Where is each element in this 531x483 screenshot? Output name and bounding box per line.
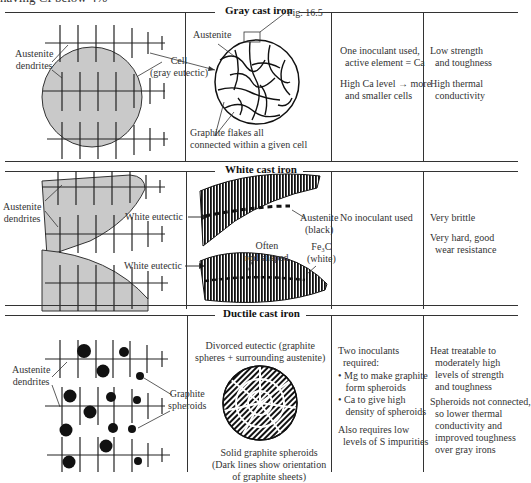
label-white-eutectic: White eutectic <box>124 260 182 272</box>
label-austenite-dendrites: Austenite dendrites <box>12 364 50 388</box>
label-white-eutectic: White eutectic <box>125 211 183 223</box>
graphite-spheroid-diagram <box>220 363 300 443</box>
inoculation-note: • Mg to make graphite form spheroids • C… <box>338 370 428 418</box>
property-note: Heat treatable to moderately high levels… <box>430 345 504 393</box>
property-note: High thermal conductivity <box>430 78 485 102</box>
inoculation-note: Also requires low levels of S impurities <box>338 424 428 448</box>
property-note: Spheroids not connected, so lower therma… <box>430 396 531 456</box>
label-fig-ref: Fig. 16.5 <box>287 7 323 19</box>
inoculation-note: High Ca level → more and smaller cells <box>340 78 431 102</box>
top-caption-fragment: having CI below 4% <box>0 0 107 6</box>
section-title-ductile: Ductile cast iron <box>217 307 306 319</box>
inoculation-note: No inoculant used <box>340 212 413 224</box>
section-divider <box>294 171 518 172</box>
column-divider <box>331 12 332 162</box>
ductile-dendrite-diagram <box>0 315 180 472</box>
column-divider <box>185 12 186 162</box>
property-note: Very hard, good wear resistance <box>430 232 496 256</box>
label-austenite: Austenite <box>193 29 231 41</box>
label-rod-shaped: Often rod shaped <box>245 240 289 264</box>
inoculation-note: Two inoculants required: <box>338 345 399 369</box>
column-divider <box>423 171 424 309</box>
label-austenite-black: Austenite (black) <box>300 212 338 236</box>
column-divider <box>186 171 187 309</box>
inoculation-note: One inoculant used, active element = Ca <box>340 45 425 69</box>
gray-dendrite-diagram <box>0 12 180 162</box>
label-austenite-dendrites: Austenite dendrites <box>3 201 41 225</box>
section-divider <box>294 315 518 316</box>
label-graphite-spheroids: Graphite spheroids <box>168 388 206 412</box>
column-divider <box>331 315 332 472</box>
label-divorced-eutectic: Divorced eutectic (graphite spheres + su… <box>195 340 325 364</box>
section-title-white: White cast iron <box>219 163 303 175</box>
label-solid-spheroids: Solid graphite spheroids (Dark lines sho… <box>212 447 326 483</box>
property-note: Very brittle <box>430 212 475 224</box>
label-austenite-dendrites: Austenite dendrites <box>15 48 53 72</box>
white-dendrite-diagram <box>0 171 180 311</box>
property-note: Low strength and toughness <box>430 45 492 69</box>
label-graphite-flakes: Graphite flakes all connected within a g… <box>190 127 307 151</box>
label-fe3c-white: Fe₃C (white) <box>307 241 336 265</box>
